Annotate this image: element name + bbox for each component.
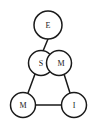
node-layer: E S M M I: [11, 11, 87, 118]
node-m-bottom-left-label: M: [19, 101, 26, 110]
node-i-label: I: [73, 101, 76, 110]
node-i[interactable]: I: [62, 93, 87, 118]
edge-s-m-bottom-left: [28, 74, 35, 93]
node-m-bottom-left[interactable]: M: [11, 93, 36, 118]
node-m-middle-label: M: [57, 59, 64, 68]
edge-e-s: [43, 39, 48, 51]
node-s-label: S: [39, 59, 43, 68]
node-e[interactable]: E: [34, 11, 62, 39]
node-m-middle[interactable]: M: [47, 51, 72, 76]
edge-m-middle-i: [64, 74, 70, 93]
graph-diagram-canvas: E S M M I: [0, 0, 95, 128]
graph-svg: E S M M I: [0, 0, 95, 128]
node-e-label: E: [46, 21, 51, 30]
